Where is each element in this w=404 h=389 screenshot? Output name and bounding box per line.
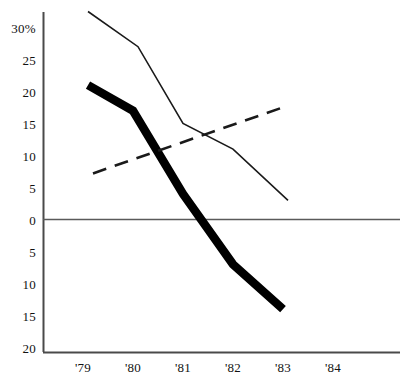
- y-tick-label: 15: [0, 117, 36, 130]
- y-tick-label: 20: [0, 341, 36, 354]
- line-chart: 30%25201510505101520 '79'80'81'82'83'84: [0, 0, 404, 389]
- y-tick-label: 5: [0, 245, 36, 258]
- y-tick-label: 25: [0, 53, 36, 66]
- y-tick-label: 0: [0, 213, 36, 226]
- y-tick-label: 5: [0, 181, 36, 194]
- y-tick-label: 10: [0, 277, 36, 290]
- chart-plot-area: [0, 0, 404, 389]
- y-tick-label: 10: [0, 149, 36, 162]
- x-tick-label: '84: [325, 361, 341, 374]
- x-tick-label: '81: [175, 361, 191, 374]
- x-tick-label: '80: [125, 361, 141, 374]
- y-tick-label: 20: [0, 85, 36, 98]
- y-tick-label: 30%: [0, 21, 36, 34]
- series-layer: [88, 12, 288, 310]
- x-tick-label: '79: [75, 361, 91, 374]
- x-tick-label: '82: [225, 361, 241, 374]
- x-tick-label: '83: [275, 361, 291, 374]
- y-tick-label: 15: [0, 309, 36, 322]
- series-dashed-trend-line: [93, 106, 288, 174]
